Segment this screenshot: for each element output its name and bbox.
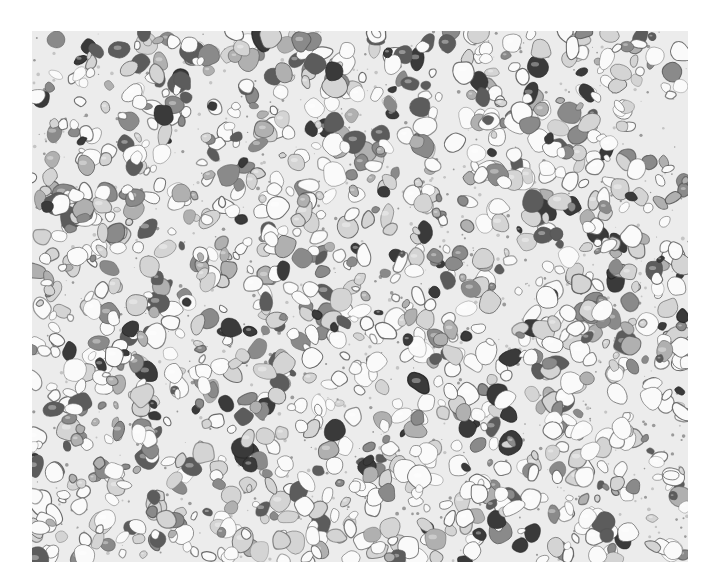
photo-caption	[0, 566, 715, 582]
pebble-texture-canvas	[32, 31, 688, 562]
pebble-texture-photo	[32, 31, 688, 562]
